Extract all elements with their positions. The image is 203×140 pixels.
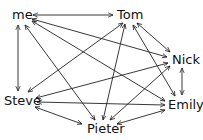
social-graph-diagram: me Tom Nick Steve Emily Pieter [0, 0, 203, 140]
node-tom: Tom [117, 8, 143, 22]
edge-me-nick [32, 19, 167, 57]
node-nick: Nick [172, 53, 200, 67]
edge-steve-pieter [35, 107, 82, 124]
edge-steve-emily [37, 102, 165, 105]
node-me: me [12, 8, 33, 22]
edge-nick-steve [36, 63, 168, 98]
edge-tom-steve [28, 23, 123, 92]
edge-nick-pieter [110, 66, 170, 120]
node-pieter: Pieter [87, 122, 125, 136]
node-emily: Emily [168, 98, 203, 112]
edge-tom-pieter [103, 24, 125, 120]
edge-tom-nick [137, 23, 170, 52]
node-steve: Steve [4, 94, 41, 108]
